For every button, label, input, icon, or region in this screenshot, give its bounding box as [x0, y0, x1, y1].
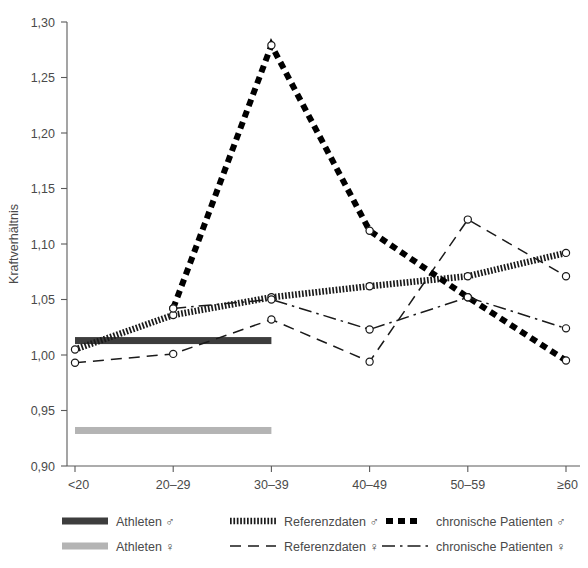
- axes: [61, 22, 580, 472]
- legend-label: Athleten ♀: [116, 540, 175, 554]
- y-tick-label: 1,30: [31, 16, 55, 30]
- y-tick-label: 1,15: [31, 182, 55, 196]
- data-point-marker: [366, 227, 373, 234]
- legend-item-2: chronische Patienten ♂: [386, 515, 566, 529]
- data-point-marker: [464, 216, 471, 223]
- y-tick-label: 0,90: [31, 460, 55, 474]
- legend-item-3: Athleten ♀: [62, 540, 175, 554]
- x-axis-tick-labels: <2020–2930–3940–4950–59≥60: [68, 478, 578, 492]
- data-series: [71, 42, 569, 434]
- y-axis-title: Kraftverhältnis: [7, 204, 21, 284]
- x-tick-label: 50–59: [450, 478, 485, 492]
- series-1: [75, 427, 271, 434]
- y-tick-label: 1,20: [31, 127, 55, 141]
- legend-item-0: Athleten ♂: [62, 515, 175, 529]
- x-tick-label: <20: [68, 478, 89, 492]
- y-tick-label: 1,05: [31, 293, 55, 307]
- legend-label: Athleten ♂: [116, 515, 175, 529]
- data-point-marker: [268, 296, 275, 303]
- chart-legend: Athleten ♂Referenzdaten ♂chronische Pati…: [62, 515, 566, 554]
- data-point-marker: [366, 326, 373, 333]
- legend-swatch: [62, 543, 108, 550]
- data-point-marker: [562, 249, 569, 256]
- legend-swatch: [62, 518, 108, 525]
- data-point-marker: [170, 350, 177, 357]
- y-tick-label: 1,25: [31, 71, 55, 85]
- data-point-marker: [71, 346, 78, 353]
- data-point-marker: [562, 325, 569, 332]
- x-tick-label: 40–49: [352, 478, 387, 492]
- data-point-marker: [464, 294, 471, 301]
- legend-label: Referenzdaten ♀: [284, 540, 379, 554]
- legend-item-4: Referenzdaten ♀: [230, 540, 379, 554]
- data-point-marker: [71, 359, 78, 366]
- x-tick-label: ≥60: [557, 478, 578, 492]
- y-axis-tick-labels: 0,900,951,001,051,101,151,201,251,30: [31, 16, 55, 474]
- x-tick-label: 20–29: [156, 478, 191, 492]
- data-point-marker: [170, 305, 177, 312]
- y-tick-label: 1,10: [31, 238, 55, 252]
- series-line: [173, 45, 566, 360]
- y-tick-label: 0,95: [31, 404, 55, 418]
- series-line: [75, 253, 566, 350]
- chart-svg: 0,900,951,001,051,101,151,201,251,30 <20…: [0, 0, 588, 568]
- data-point-marker: [562, 357, 569, 364]
- legend-label: chronische Patienten ♂: [436, 515, 566, 529]
- athlete-band: [75, 427, 271, 434]
- legend-item-1: Referenzdaten ♂: [230, 515, 379, 529]
- data-point-marker: [268, 316, 275, 323]
- y-tick-label: 1,00: [31, 349, 55, 363]
- series-4: [170, 42, 570, 364]
- data-point-marker: [268, 42, 275, 49]
- data-point-marker: [366, 283, 373, 290]
- legend-item-5: chronische Patienten ♀: [382, 540, 566, 554]
- y-axis-title-text: Kraftverhältnis: [7, 204, 21, 284]
- data-point-marker: [464, 273, 471, 280]
- data-point-marker: [562, 273, 569, 280]
- data-point-marker: [366, 358, 373, 365]
- legend-label: Referenzdaten ♂: [284, 515, 379, 529]
- chart-figure: 0,900,951,001,051,101,151,201,251,30 <20…: [0, 0, 588, 568]
- x-tick-label: 30–39: [254, 478, 289, 492]
- legend-label: chronische Patienten ♀: [436, 540, 566, 554]
